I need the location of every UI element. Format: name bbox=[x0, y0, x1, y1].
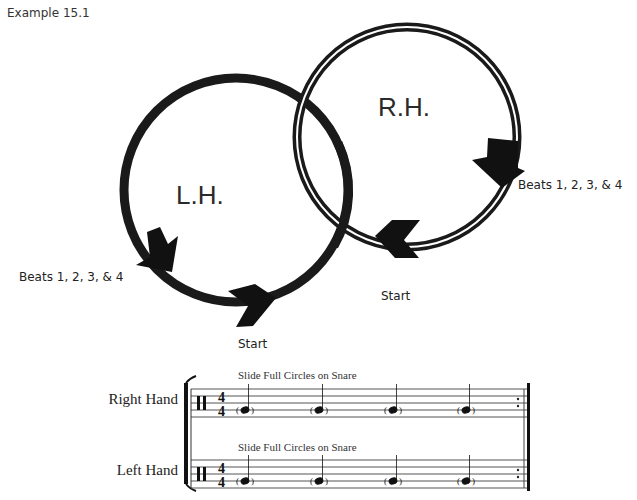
svg-text:): ) bbox=[325, 476, 328, 486]
svg-text:4: 4 bbox=[218, 461, 225, 476]
percussion-score: 4 4 4 4 () () () () () () () () bbox=[0, 0, 637, 500]
svg-text:): ) bbox=[399, 476, 402, 486]
svg-text:(: ( bbox=[384, 476, 387, 486]
repeat-barline-icon bbox=[517, 383, 530, 491]
svg-text:4: 4 bbox=[218, 475, 225, 490]
svg-text:(: ( bbox=[457, 476, 460, 486]
svg-text:(: ( bbox=[236, 476, 239, 486]
svg-text:4: 4 bbox=[218, 390, 225, 405]
svg-text:(: ( bbox=[384, 405, 387, 415]
svg-text:): ) bbox=[472, 405, 475, 415]
svg-text:): ) bbox=[399, 405, 402, 415]
svg-text:(: ( bbox=[310, 405, 313, 415]
svg-text:): ) bbox=[251, 405, 254, 415]
svg-text:(: ( bbox=[457, 405, 460, 415]
percussion-clef-icon bbox=[197, 396, 206, 481]
time-signature-4-4: 4 4 4 4 bbox=[218, 390, 225, 490]
svg-text:): ) bbox=[472, 476, 475, 486]
svg-text:(: ( bbox=[236, 405, 239, 415]
svg-text:): ) bbox=[325, 405, 328, 415]
svg-text:4: 4 bbox=[218, 404, 225, 419]
svg-text:(: ( bbox=[310, 476, 313, 486]
svg-text:): ) bbox=[251, 476, 254, 486]
